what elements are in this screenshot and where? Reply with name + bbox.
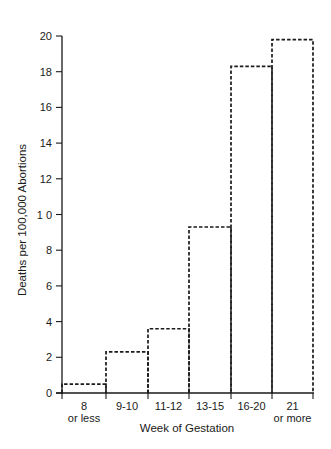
y-tick-label: 1 0 bbox=[37, 209, 52, 221]
bar bbox=[189, 227, 231, 393]
bars bbox=[62, 40, 313, 393]
x-category-label: 9-10 bbox=[116, 400, 138, 412]
x-axis: 8or less9-1011-1213-1516-2021or more bbox=[56, 393, 314, 424]
x-category-label: or less bbox=[68, 412, 101, 424]
x-category-label: 16-20 bbox=[237, 400, 265, 412]
y-tick-label: 6 bbox=[46, 280, 52, 292]
x-category-label: 8 bbox=[81, 400, 87, 412]
x-category-label: or more bbox=[274, 412, 312, 424]
y-axis-title: Deaths per 100,000 Abortions bbox=[16, 144, 28, 296]
x-category-label: 13-15 bbox=[196, 400, 224, 412]
x-category-label: 21 bbox=[286, 400, 298, 412]
y-tick-label: 0 bbox=[46, 387, 52, 399]
y-tick-label: 8 bbox=[46, 244, 52, 256]
y-tick-label: 4 bbox=[46, 316, 52, 328]
y-tick-label: 12 bbox=[40, 173, 52, 185]
y-tick-label: 2 bbox=[46, 351, 52, 363]
bar bbox=[148, 329, 189, 393]
y-axis: 024681 01214161820 bbox=[37, 30, 62, 399]
bar-chart: 024681 01214161820 8or less9-1011-1213-1… bbox=[0, 0, 331, 449]
y-tick-label: 18 bbox=[40, 66, 52, 78]
bar bbox=[231, 66, 272, 393]
x-category-label: 11-12 bbox=[155, 400, 182, 412]
x-axis-title: Week of Gestation bbox=[140, 422, 234, 434]
y-tick-label: 20 bbox=[40, 30, 52, 42]
bar bbox=[62, 384, 106, 393]
bar bbox=[272, 40, 313, 393]
y-tick-label: 16 bbox=[40, 101, 52, 113]
y-tick-label: 14 bbox=[40, 137, 52, 149]
bar bbox=[106, 352, 148, 393]
